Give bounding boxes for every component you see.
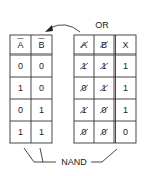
left-cell: 1 <box>39 105 44 115</box>
or-label: OR <box>95 20 109 30</box>
nand-leader-left-a <box>24 148 34 162</box>
arrow-curve <box>50 25 80 32</box>
nand-leader-right <box>102 149 117 162</box>
nand-label: NAND <box>61 157 87 167</box>
right-cell: 1 <box>123 61 128 71</box>
right-cell: 1 <box>123 105 128 115</box>
left-cell: 1 <box>39 127 44 137</box>
left-cell: 0 <box>39 61 44 71</box>
left-header-a: A <box>17 40 23 50</box>
left-cell: 1 <box>18 127 23 137</box>
left-header-b: B <box>38 40 44 50</box>
transform-arrow <box>45 25 80 32</box>
left-cell: 0 <box>18 61 23 71</box>
left-cell: 0 <box>18 105 23 115</box>
left-truth-table: AB00100111 <box>10 35 52 143</box>
arrow-head-icon <box>45 25 53 32</box>
right-truth-table: ABX111011101000 <box>74 35 136 143</box>
nand-annotation: NAND <box>24 148 117 167</box>
right-header-x: X <box>122 40 128 50</box>
nand-leader-left-b <box>40 148 43 162</box>
truth-table-diagram: AB00100111 ABX111011101000 OR NAND <box>0 0 144 176</box>
right-cell: 0 <box>123 127 128 137</box>
left-cell: 0 <box>39 83 44 93</box>
right-cell: 1 <box>123 83 128 93</box>
left-cell: 1 <box>18 83 23 93</box>
